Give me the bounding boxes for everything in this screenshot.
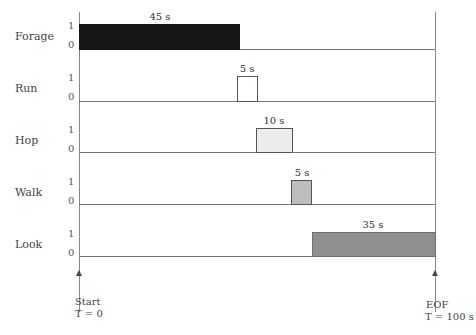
eof-time-label: T = 100 s [425, 311, 474, 323]
start-label: Start [75, 296, 101, 308]
activity-bar [291, 180, 312, 205]
track-label: Look [15, 238, 42, 251]
arrow-up-icon [76, 270, 82, 276]
start-time-label: T = 0 [75, 308, 103, 320]
duration-label: 5 s [232, 63, 262, 74]
y-tick-0: 0 [68, 247, 74, 258]
duration-label: 10 s [254, 115, 294, 126]
start-axis-line [79, 12, 80, 312]
y-tick-1: 1 [68, 176, 74, 187]
activity-bar [256, 128, 293, 153]
duration-label: 5 s [287, 167, 317, 178]
track-label: Forage [15, 30, 54, 43]
activity-bar [237, 76, 258, 102]
baseline [79, 204, 435, 205]
duration-label: 35 s [353, 219, 393, 230]
track-label: Hop [15, 134, 38, 147]
arrow-up-icon [432, 270, 438, 276]
activity-bar [312, 232, 436, 257]
y-tick-1: 1 [68, 20, 74, 31]
eof-label: EOF [426, 299, 448, 311]
activity-bar [79, 24, 240, 50]
y-tick-1: 1 [68, 228, 74, 239]
y-tick-0: 0 [68, 91, 74, 102]
y-tick-1: 1 [68, 124, 74, 135]
duration-label: 45 s [140, 11, 180, 22]
y-tick-0: 0 [68, 143, 74, 154]
y-tick-0: 0 [68, 195, 74, 206]
y-tick-0: 0 [68, 39, 74, 50]
track-label: Run [15, 82, 37, 95]
track-label: Walk [15, 186, 42, 199]
end-axis-line [435, 12, 436, 312]
y-tick-1: 1 [68, 72, 74, 83]
